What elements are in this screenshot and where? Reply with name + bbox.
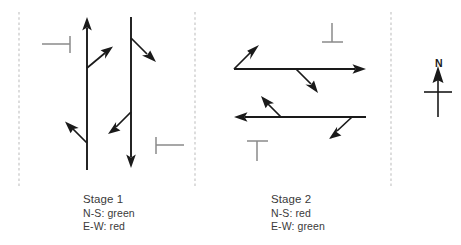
stage-2-graphic <box>234 23 366 161</box>
westbound-left-turn-arrowhead <box>261 96 274 108</box>
northbound-through-movement <box>82 17 92 170</box>
diagram-canvas <box>0 0 461 245</box>
east-approach-stopline <box>156 137 184 154</box>
stage-1-graphic <box>42 17 184 170</box>
west-approach-stopline <box>42 36 70 53</box>
westbound-left-turn-movement <box>261 96 281 117</box>
westbound-right-turn-movement <box>329 117 352 139</box>
stage-1-ns-state: N-S: green <box>83 207 135 220</box>
southbound-through-movement <box>126 17 136 168</box>
stage-2-caption: Stage 2 N-S: red E-W: green <box>271 193 325 233</box>
southbound-left-turn-movement <box>131 38 156 62</box>
northbound-left-turn-movement <box>65 122 87 144</box>
stage-2-stoplines <box>247 23 343 161</box>
stage-1-ew-state: E-W: red <box>83 220 135 233</box>
stage-2-title: Stage 2 <box>271 193 325 206</box>
eastbound-right-turn-movement <box>296 69 318 93</box>
northbound-right-turn-arrowhead <box>101 47 113 59</box>
panel-dividers <box>19 12 391 186</box>
stage-1-title: Stage 1 <box>83 193 135 206</box>
westbound-through-movement <box>234 112 366 122</box>
stage-1-stoplines <box>42 36 184 154</box>
eastbound-right-turn-arrowhead <box>305 81 318 93</box>
stage-2-ew-state: E-W: green <box>271 220 325 233</box>
southbound-right-turn-movement <box>108 112 131 134</box>
stage-1-caption: Stage 1 N-S: green E-W: red <box>83 193 135 233</box>
eastbound-left-turn-movement <box>234 45 259 69</box>
stage-2-ns-state: N-S: red <box>271 207 325 220</box>
south-approach-stopline <box>247 141 268 161</box>
north-approach-stopline <box>322 23 343 42</box>
traffic-signal-staging-diagram: Stage 1 N-S: green E-W: red Stage 2 N-S:… <box>0 0 461 245</box>
eastbound-left-turn-arrowhead <box>247 45 259 60</box>
compass-north-label: N <box>435 57 443 69</box>
compass-rose <box>424 66 452 117</box>
northbound-right-turn-movement <box>87 47 113 69</box>
